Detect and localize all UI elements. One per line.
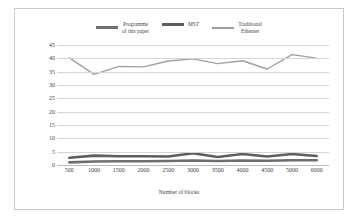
gridline bbox=[57, 98, 329, 99]
y-axis-tick-label: 10 bbox=[49, 135, 55, 141]
series-lines bbox=[57, 45, 329, 165]
x-axis-tick-label: 5000 bbox=[286, 167, 298, 173]
y-axis-tick-label: 40 bbox=[49, 55, 55, 61]
chart-figure: Programme of this paperMSTTraditional Et… bbox=[14, 8, 344, 210]
x-axis-tick-label: 1000 bbox=[88, 167, 100, 173]
series-line bbox=[69, 160, 316, 162]
y-axis-tick-label: 45 bbox=[49, 42, 55, 48]
y-axis-tick-label: 0 bbox=[52, 162, 55, 168]
y-axis-tick-label: 25 bbox=[49, 95, 55, 101]
plot-area bbox=[57, 45, 329, 165]
gridline bbox=[57, 45, 329, 46]
x-axis-tick-label: 4000 bbox=[236, 167, 248, 173]
x-axis-line bbox=[57, 165, 329, 166]
gridline bbox=[57, 112, 329, 113]
gridline bbox=[57, 85, 329, 86]
x-axis-tick-label: 3500 bbox=[212, 167, 224, 173]
y-axis-tick-labels: 051015202530354045 bbox=[33, 45, 55, 165]
x-axis-tick-label: 2500 bbox=[162, 167, 174, 173]
x-axis-tick-label: 1500 bbox=[113, 167, 125, 173]
y-axis-tick-label: 30 bbox=[49, 82, 55, 88]
x-axis-tick-label: 6000 bbox=[311, 167, 323, 173]
series-line bbox=[69, 153, 316, 158]
plot-area-wrapper: Enquiry Delay(ms) 051015202530354045 500… bbox=[15, 9, 343, 209]
gridline bbox=[57, 58, 329, 59]
x-axis-tick-labels: 5001000150020002500300035004000450050006… bbox=[57, 167, 329, 179]
y-axis-tick-label: 20 bbox=[49, 109, 55, 115]
gridline bbox=[57, 138, 329, 139]
x-axis-tick-label: 2000 bbox=[138, 167, 150, 173]
x-axis-tick-label: 3000 bbox=[187, 167, 199, 173]
x-axis-title: Number of blocks bbox=[15, 189, 343, 195]
gridline bbox=[57, 125, 329, 126]
y-axis-tick-label: 35 bbox=[49, 69, 55, 75]
y-axis-tick-label: 15 bbox=[49, 122, 55, 128]
gridline bbox=[57, 152, 329, 153]
x-axis-tick-label: 500 bbox=[65, 167, 74, 173]
y-axis-tick-label: 5 bbox=[52, 149, 55, 155]
x-axis-tick-label: 4500 bbox=[261, 167, 273, 173]
gridline bbox=[57, 72, 329, 73]
